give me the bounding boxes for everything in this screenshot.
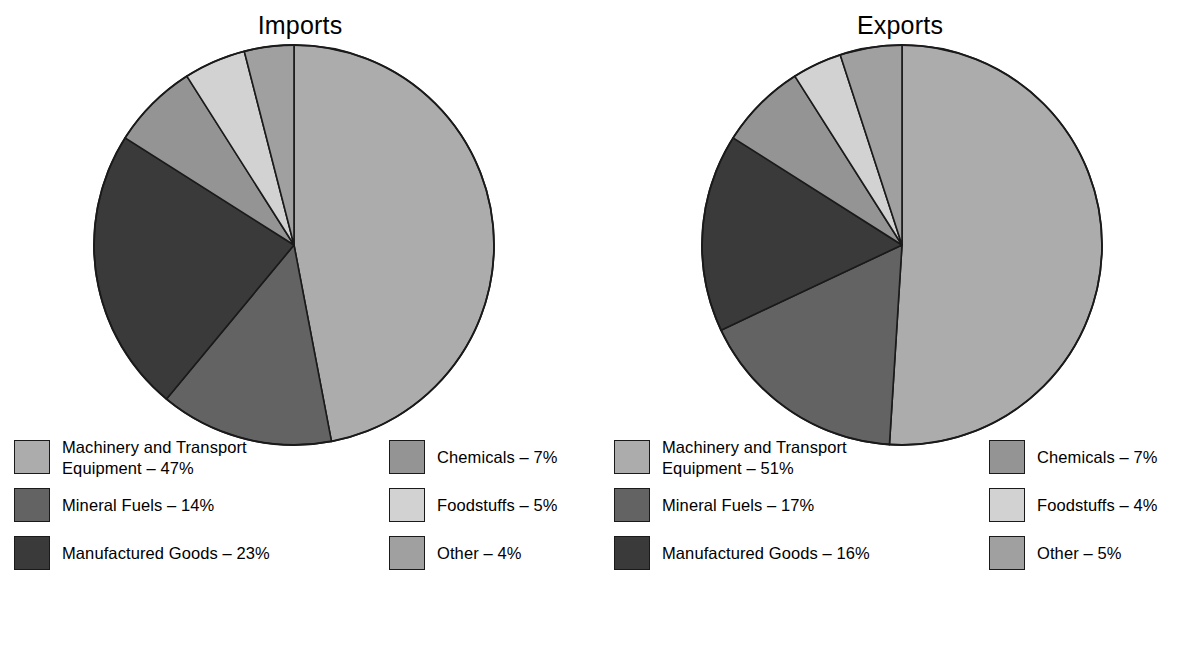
legend-item-machinery: Machinery and Transport Equipment – 47%	[14, 436, 374, 484]
legend-label-other: Other – 5%	[1037, 543, 1121, 564]
legend-item-other: Other – 5%	[989, 532, 1189, 580]
legend-item-chemicals: Chemicals – 7%	[989, 436, 1189, 484]
legend-item-foodstuffs: Foodstuffs – 4%	[989, 484, 1189, 532]
legend-swatch-foodstuffs	[389, 488, 425, 522]
legend-swatch-chemicals	[989, 440, 1025, 474]
exports-pie-svg	[699, 42, 1105, 448]
legend-item-other: Other – 4%	[389, 532, 589, 580]
legend-swatch-other	[989, 536, 1025, 570]
legend-swatch-mineral-fuels	[14, 488, 50, 522]
legend-item-mineral-fuels: Mineral Fuels – 14%	[14, 484, 374, 532]
imports-legend: Machinery and Transport Equipment – 47% …	[0, 436, 600, 586]
legend-swatch-other	[389, 536, 425, 570]
legend-item-chemicals: Chemicals – 7%	[389, 436, 589, 484]
legend-swatch-manufactured-goods	[614, 536, 650, 570]
legend-swatch-machinery	[614, 440, 650, 474]
imports-pie-chart	[91, 42, 497, 448]
legend-item-machinery: Machinery and Transport Equipment – 51%	[614, 436, 974, 484]
legend-label-machinery: Machinery and Transport Equipment – 51%	[662, 437, 847, 479]
legend-swatch-machinery	[14, 440, 50, 474]
legend-item-foodstuffs: Foodstuffs – 5%	[389, 484, 589, 532]
legend-label-chemicals: Chemicals – 7%	[437, 447, 558, 468]
imports-legend-column-right: Chemicals – 7% Foodstuffs – 5% Other – 4…	[389, 436, 589, 580]
imports-legend-column-left: Machinery and Transport Equipment – 47% …	[14, 436, 374, 580]
legend-swatch-mineral-fuels	[614, 488, 650, 522]
imports-chart-title: Imports	[0, 10, 600, 40]
legend-label-manufactured-goods: Manufactured Goods – 23%	[62, 543, 270, 564]
legend-label-manufactured-goods: Manufactured Goods – 16%	[662, 543, 870, 564]
legend-label-mineral-fuels: Mineral Fuels – 17%	[662, 495, 814, 516]
exports-pie-slices	[702, 45, 1102, 445]
imports-pie-svg	[91, 42, 497, 448]
pie-slice	[294, 45, 494, 441]
legend-swatch-chemicals	[389, 440, 425, 474]
exports-legend-column-right: Chemicals – 7% Foodstuffs – 4% Other – 5…	[989, 436, 1189, 580]
legend-swatch-manufactured-goods	[14, 536, 50, 570]
legend-label-machinery: Machinery and Transport Equipment – 47%	[62, 437, 247, 479]
pie-slice	[889, 45, 1102, 445]
legend-label-mineral-fuels: Mineral Fuels – 14%	[62, 495, 214, 516]
exports-chart-panel: Exports Machinery and Transport Equipmen…	[600, 0, 1200, 646]
legend-item-manufactured-goods: Manufactured Goods – 23%	[14, 532, 374, 580]
legend-label-chemicals: Chemicals – 7%	[1037, 447, 1158, 468]
imports-chart-panel: Imports Machinery and Transport Equipmen…	[0, 0, 600, 646]
exports-legend: Machinery and Transport Equipment – 51% …	[600, 436, 1200, 586]
legend-label-other: Other – 4%	[437, 543, 521, 564]
exports-chart-title: Exports	[600, 10, 1200, 40]
imports-pie-slices	[94, 45, 494, 445]
legend-label-foodstuffs: Foodstuffs – 5%	[437, 495, 557, 516]
legend-swatch-foodstuffs	[989, 488, 1025, 522]
legend-item-manufactured-goods: Manufactured Goods – 16%	[614, 532, 974, 580]
legend-label-foodstuffs: Foodstuffs – 4%	[1037, 495, 1157, 516]
exports-pie-chart	[699, 42, 1105, 448]
exports-legend-column-left: Machinery and Transport Equipment – 51% …	[614, 436, 974, 580]
legend-item-mineral-fuels: Mineral Fuels – 17%	[614, 484, 974, 532]
